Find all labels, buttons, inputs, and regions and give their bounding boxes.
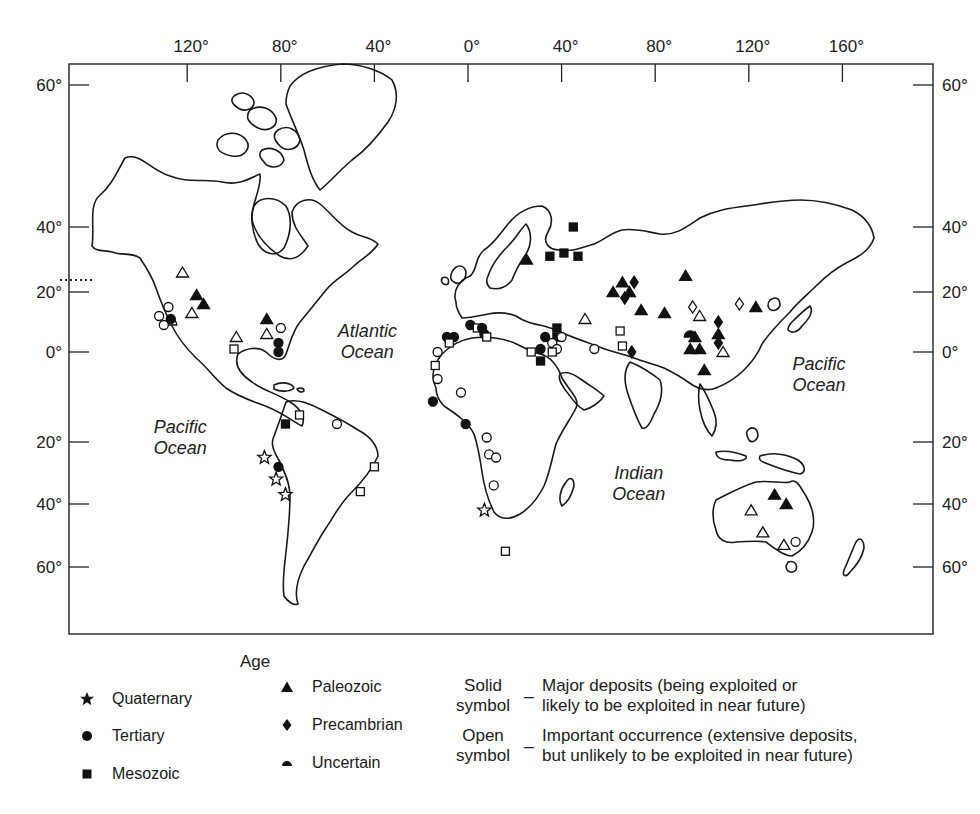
deposit-solid-diamond-icon bbox=[714, 316, 722, 328]
legend-item-tertiary: Tertiary bbox=[76, 727, 164, 745]
africa-outline bbox=[433, 337, 577, 518]
left-tick-label: 60° bbox=[36, 558, 62, 577]
deposit-open-square-icon bbox=[370, 463, 378, 471]
deposit-open-square-icon bbox=[527, 348, 535, 356]
ocean-label-line: Atlantic bbox=[337, 321, 397, 341]
deposit-open-square-icon bbox=[501, 547, 509, 555]
deposit-solid-circle-icon bbox=[461, 420, 470, 429]
deposit-open-circle-icon bbox=[482, 433, 491, 442]
deposit-solid-square-icon bbox=[546, 252, 554, 260]
deposit-open-circle-icon bbox=[492, 453, 501, 462]
solid-symbol-key: Solid symbol bbox=[450, 676, 516, 716]
top-tick-label: 80° bbox=[272, 37, 298, 56]
deposit-open-circle-icon bbox=[433, 348, 442, 357]
ocean-label-line: Ocean bbox=[792, 375, 845, 395]
deposit-solid-triangle-icon bbox=[635, 305, 647, 315]
axis-tick-labels: 120° 80° 40° 0° 40° 80° 120° 160° 60° 40… bbox=[36, 37, 967, 577]
deposit-solid-diamond-icon bbox=[630, 276, 638, 288]
world-map: 120° 80° 40° 0° 40° 80° 120° 160° 60° 40… bbox=[0, 0, 980, 640]
left-tick-label: 60° bbox=[36, 76, 62, 95]
deposit-solid-square-icon bbox=[553, 324, 561, 332]
key-line: symbol bbox=[450, 746, 516, 766]
caribbean-islands-outline bbox=[274, 383, 304, 392]
deposit-solid-triangle-icon bbox=[780, 499, 792, 509]
deposit-solid-square-icon bbox=[537, 357, 545, 365]
key-line: symbol bbox=[450, 696, 516, 716]
deposit-open-star-icon bbox=[258, 451, 271, 464]
solid-symbol-description: Major deposits (being exploited or likel… bbox=[542, 676, 806, 716]
deposit-solid-square-icon bbox=[281, 420, 289, 428]
legend-age-title: Age bbox=[240, 652, 270, 672]
deposit-open-diamond-icon bbox=[735, 298, 743, 310]
deposit-open-triangle-icon bbox=[778, 539, 790, 549]
legend-label: Uncertain bbox=[312, 754, 380, 772]
south-america-outline bbox=[272, 401, 378, 605]
deposit-solid-square-icon bbox=[560, 249, 568, 257]
key-line: Open bbox=[450, 726, 516, 746]
legend-dash: _ bbox=[516, 676, 542, 700]
legend-label: Quaternary bbox=[112, 690, 192, 708]
top-tick-label: 120° bbox=[735, 37, 770, 56]
legend-label: Tertiary bbox=[112, 727, 164, 745]
legend-label: Mesozoic bbox=[112, 765, 180, 783]
desc-line: likely to be exploited in near future) bbox=[542, 696, 806, 716]
deposit-open-square-icon bbox=[230, 345, 238, 353]
legend-label: Precambrian bbox=[312, 716, 403, 734]
right-tick-label: 20° bbox=[942, 433, 968, 452]
deposit-open-square-icon bbox=[445, 339, 453, 347]
deposit-solid-triangle-icon bbox=[616, 277, 628, 287]
madagascar-outline bbox=[560, 479, 574, 506]
deposit-open-square-icon bbox=[296, 411, 304, 419]
deposit-open-triangle-icon bbox=[186, 308, 198, 318]
diamond-icon bbox=[276, 718, 298, 732]
top-tick-label: 0° bbox=[464, 37, 480, 56]
deposit-open-circle-icon bbox=[332, 420, 341, 429]
right-tick-label: 60° bbox=[942, 558, 968, 577]
ocean-label-pacific-west: PacificOcean bbox=[154, 417, 207, 458]
right-tick-label: 40° bbox=[942, 218, 968, 237]
desc-line: Major deposits (being exploited or bbox=[542, 676, 806, 696]
tasmania-outline bbox=[786, 561, 797, 572]
deposit-open-circle-icon bbox=[159, 321, 168, 330]
deposit-open-circle-icon bbox=[590, 345, 599, 354]
scandinavia-outline bbox=[487, 224, 531, 289]
deposit-open-square-icon bbox=[548, 348, 556, 356]
top-tick-label: 40° bbox=[553, 37, 579, 56]
japan-outline bbox=[768, 298, 811, 332]
square-icon bbox=[76, 768, 98, 780]
deposit-open-square-icon bbox=[483, 333, 491, 341]
deposit-solid-circle-icon bbox=[274, 348, 283, 357]
deposit-solid-square-icon bbox=[574, 252, 582, 260]
desc-line: Important occurrence (extensive deposits… bbox=[542, 726, 858, 746]
deposit-solid-circle-icon bbox=[274, 339, 283, 348]
deposit-open-square-icon bbox=[431, 362, 439, 370]
circle-icon bbox=[76, 729, 98, 743]
greenland-outline bbox=[286, 64, 396, 190]
deposit-open-circle-icon bbox=[791, 537, 800, 546]
deposit-solid-triangle-icon bbox=[680, 270, 692, 280]
deposit-solid-triangle-icon bbox=[698, 365, 710, 375]
deposit-solid-triangle-icon bbox=[659, 308, 671, 318]
left-tick-label: 20° bbox=[36, 433, 62, 452]
deposit-open-triangle-icon bbox=[757, 527, 769, 537]
deposit-open-diamond-icon bbox=[689, 301, 697, 313]
legend-item-uncertain: Uncertain bbox=[276, 754, 380, 772]
deposit-open-star-icon bbox=[478, 503, 491, 516]
deposit-solid-circle-icon bbox=[428, 397, 437, 406]
deposit-solid-circle-icon bbox=[274, 462, 283, 471]
deposit-open-star-icon bbox=[270, 472, 283, 485]
arctic-islands-outline bbox=[217, 93, 300, 167]
deposit-open-square-icon bbox=[616, 327, 624, 335]
left-tick-label: 40° bbox=[36, 218, 62, 237]
indochina-outline bbox=[699, 384, 717, 436]
ocean-label-line: Ocean bbox=[154, 438, 207, 458]
deposit-open-triangle-icon bbox=[694, 311, 706, 321]
open-symbol-legend: Open symbol _ Important occurrence (exte… bbox=[450, 726, 975, 766]
deposit-open-circle-icon bbox=[164, 303, 173, 312]
deposit-solid-triangle-icon bbox=[191, 290, 203, 300]
north-america-outline bbox=[92, 157, 378, 426]
arabia-outline bbox=[559, 372, 604, 410]
top-tick-label: 80° bbox=[646, 37, 672, 56]
top-tick-label: 120° bbox=[174, 37, 209, 56]
ocean-label-pacific-east: PacificOcean bbox=[792, 354, 845, 395]
